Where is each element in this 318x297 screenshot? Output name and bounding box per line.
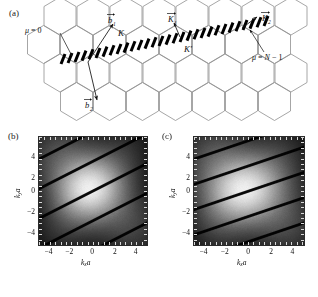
panel-c-heatmap-canvas xyxy=(194,137,304,245)
panel-c-xtick-4: 4 xyxy=(291,247,295,256)
panel-c-heatmap: (c) −4 −2 0 2 4 4 2 0 −2 −4 kxa kya xyxy=(161,128,311,296)
panel-c-plot-area xyxy=(193,136,305,246)
panel-c-xtick--4: −4 xyxy=(200,247,208,256)
panel-c-label: (c) xyxy=(162,131,172,141)
panel-c-ytick-0: 0 xyxy=(179,186,190,195)
b2-label: b 2 xyxy=(84,98,93,112)
b1-arrow xyxy=(88,24,113,62)
panel-b-ytick--4: −4 xyxy=(21,227,35,236)
panel-b-xtick-0: 0 xyxy=(90,247,94,256)
k-prime-point-label: K′ xyxy=(183,44,193,54)
panel-b-xaxis-title: kxa xyxy=(81,258,91,267)
mu-zero-label: μ = 0 xyxy=(24,26,42,35)
lattice-svg: μ = 0 μ = N − 1 K K′ b 1 b 2 xyxy=(0,0,318,126)
reciprocal-vectors xyxy=(88,24,113,100)
svg-text:b: b xyxy=(108,15,112,25)
panel-c-yaxis-title: kya xyxy=(168,188,177,198)
svg-text:2: 2 xyxy=(268,19,271,25)
panel-b-heatmap: (b) −4 −2 0 2 4 4 2 0 −2 −4 kxa kya xyxy=(8,128,153,296)
panel-c-xaxis-title: kxa xyxy=(237,258,247,267)
panel-b-ytick--2: −2 xyxy=(21,207,35,216)
panel-a-lattice-diagram: (a) xyxy=(0,0,318,126)
panel-b-heatmap-canvas xyxy=(39,137,147,245)
panel-b-label: (b) xyxy=(8,131,19,141)
panel-c-ytick-4: 4 xyxy=(179,152,190,161)
panel-b-plot-area xyxy=(38,136,148,246)
figure-root: (a) xyxy=(0,0,318,297)
panel-b-ytick-0: 0 xyxy=(24,186,35,195)
panel-c-xtick-0: 0 xyxy=(246,247,250,256)
panel-b-xtick--2: −2 xyxy=(65,247,73,256)
panel-b-xtick--4: −4 xyxy=(44,247,52,256)
panel-b-xtick-4: 4 xyxy=(134,247,138,256)
b1-label: b 1 xyxy=(107,13,116,27)
panel-b-yaxis-title: kya xyxy=(13,188,22,198)
panel-b-ytick-2: 2 xyxy=(24,172,35,181)
k1-label: K 1 xyxy=(167,12,177,26)
panel-b-xtick-2: 2 xyxy=(113,247,117,256)
panel-b-ytick-4: 4 xyxy=(24,152,35,161)
svg-text:b: b xyxy=(85,100,89,110)
k-point-label: K xyxy=(117,28,125,38)
svg-text:2: 2 xyxy=(90,106,93,112)
panel-c-xtick--2: −2 xyxy=(221,247,229,256)
panel-c-xtick-2: 2 xyxy=(269,247,273,256)
k2-label: K 2 xyxy=(261,11,271,25)
panel-a-label: (a) xyxy=(9,8,19,18)
panel-c-ytick--4: −4 xyxy=(176,227,190,236)
mu-zero-leader xyxy=(60,33,72,56)
mu-n-minus-one-label: μ = N − 1 xyxy=(251,53,282,62)
svg-text:1: 1 xyxy=(113,21,116,27)
panel-c-ytick-2: 2 xyxy=(179,172,190,181)
svg-text:1: 1 xyxy=(174,20,177,26)
panel-c-ytick--2: −2 xyxy=(176,207,190,216)
